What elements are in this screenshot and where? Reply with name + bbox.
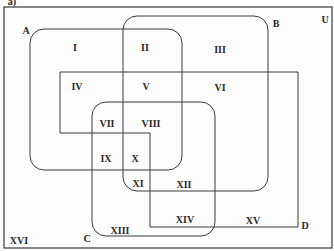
set-d-label: D	[301, 220, 308, 231]
set-a-outline	[30, 29, 182, 170]
region-label: XIV	[176, 214, 194, 225]
region-label: III	[214, 44, 226, 55]
venn-diagram	[0, 0, 334, 251]
set-d-outline	[60, 72, 298, 227]
region-label: XI	[132, 178, 143, 189]
region-label: IV	[71, 81, 82, 92]
region-label: I	[73, 42, 77, 53]
region-label: V	[142, 81, 149, 92]
universe-box	[4, 7, 332, 248]
region-label: IX	[100, 153, 111, 164]
region-label: VI	[214, 82, 225, 93]
region-label: VII	[99, 118, 114, 129]
region-label: XVI	[10, 235, 28, 246]
universe-label: U	[321, 14, 328, 25]
region-label: XV	[246, 215, 260, 226]
region-label: VIII	[142, 118, 161, 129]
figure-label: a)	[8, 0, 16, 7]
region-label: XII	[176, 179, 191, 190]
set-c-label: C	[83, 233, 90, 244]
region-label: XIII	[111, 225, 130, 236]
set-a-label: A	[22, 25, 29, 36]
region-label: II	[141, 42, 149, 53]
set-b-label: B	[273, 18, 280, 29]
region-label: X	[131, 153, 138, 164]
